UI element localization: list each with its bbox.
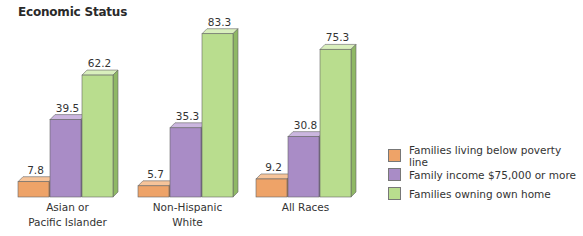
bar-side [113, 70, 118, 197]
bar [170, 128, 201, 197]
bar-value-label: 9.2 [265, 161, 282, 173]
legend-label: Family income $75,000 or more [409, 169, 576, 181]
bar-value-label: 62.2 [88, 57, 111, 69]
bar-side [351, 44, 356, 197]
category-label: White [172, 216, 203, 228]
bar [256, 179, 287, 197]
legend-item-poverty: Families living below poverty line [388, 146, 583, 165]
bar-group: 9.230.875.3All Races [256, 31, 356, 213]
legend-swatch-icon [388, 149, 401, 162]
legend: Families living below poverty line Famil… [388, 146, 583, 203]
bar-top [256, 174, 292, 179]
bar-top [50, 115, 86, 120]
bar-value-label: 30.8 [294, 119, 317, 131]
bar-value-label: 75.3 [326, 31, 349, 43]
bar-value-label: 35.3 [176, 110, 199, 122]
legend-item-homeowner: Families owning own home [388, 184, 583, 203]
bar [18, 182, 49, 197]
bar [288, 137, 319, 197]
category-label: All Races [282, 201, 330, 213]
bar-top [288, 132, 324, 137]
legend-swatch-icon [388, 168, 401, 181]
bar-value-label: 83.3 [208, 16, 231, 28]
bar [138, 186, 169, 197]
bar-value-label: 7.8 [27, 164, 44, 176]
bar [320, 49, 351, 197]
bar-value-label: 5.7 [147, 168, 164, 180]
bar-top [18, 177, 54, 182]
bar-top [170, 123, 206, 128]
category-label: Asian or [46, 201, 89, 213]
category-label: Non-Hispanic [153, 201, 223, 213]
bar [202, 34, 233, 197]
bar-group: 7.839.562.2Asian orPacific Islander [18, 57, 118, 228]
bar-top [82, 70, 118, 75]
bar-top [202, 29, 238, 34]
legend-swatch-icon [388, 187, 401, 200]
category-label: Pacific Islander [28, 216, 107, 228]
legend-item-income: Family income $75,000 or more [388, 165, 583, 184]
bar-top [138, 181, 174, 186]
bar [82, 75, 113, 197]
bar-side [233, 29, 238, 197]
bar-value-label: 39.5 [56, 102, 79, 114]
legend-label: Families living below poverty line [409, 144, 583, 168]
legend-label: Families owning own home [409, 188, 551, 200]
bar [50, 120, 81, 197]
bar-top [320, 44, 356, 49]
bar-group: 5.735.383.3Non-HispanicWhite [138, 16, 238, 228]
